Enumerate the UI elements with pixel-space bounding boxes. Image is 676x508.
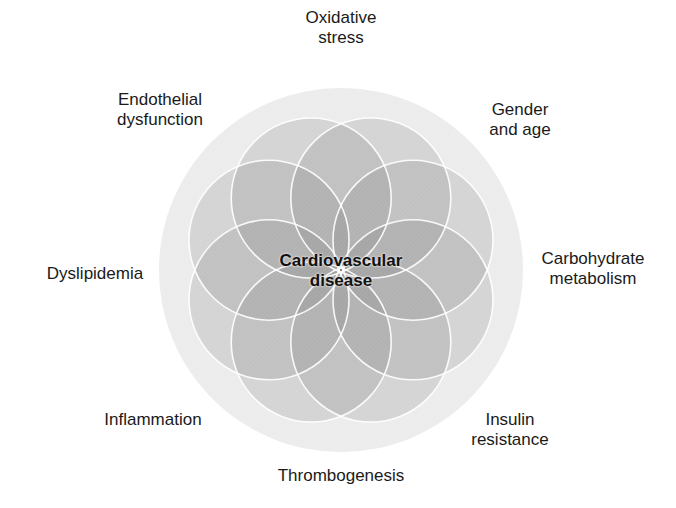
factor-inflammation: Inflammation [88,410,218,430]
factor-line2: and age [465,120,575,140]
factor-endothelial-dysfunction: Endothelial dysfunction [100,90,220,130]
center-label-line2: disease [241,271,441,291]
center-label-cardiovascular-disease: Cardiovascular disease [241,251,441,291]
factor-line1: Oxidative [291,8,391,28]
factor-oxidative-stress: Oxidative stress [291,8,391,48]
factor-dyslipidemia: Dyslipidemia [30,264,160,284]
factor-line1: Dyslipidemia [30,264,160,284]
factor-insulin-resistance: Insulin resistance [455,410,565,450]
cvd-risk-factor-rosette: Cardiovascular disease Oxidative stress … [0,0,676,508]
factor-line1: Endothelial [100,90,220,110]
factor-line1: Inflammation [88,410,218,430]
center-label-line1: Cardiovascular [241,251,441,271]
factor-thrombogenesis: Thrombogenesis [261,466,421,486]
factor-line2: dysfunction [100,110,220,130]
factor-line1: Thrombogenesis [261,466,421,486]
factor-line2: resistance [455,430,565,450]
factor-line2: stress [291,28,391,48]
factor-line1: Carbohydrate [520,249,666,269]
factor-carbohydrate-metabolism: Carbohydrate metabolism [520,249,666,289]
factor-gender-and-age: Gender and age [465,100,575,140]
factor-line1: Insulin [455,410,565,430]
factor-line2: metabolism [520,269,666,289]
factor-line1: Gender [465,100,575,120]
